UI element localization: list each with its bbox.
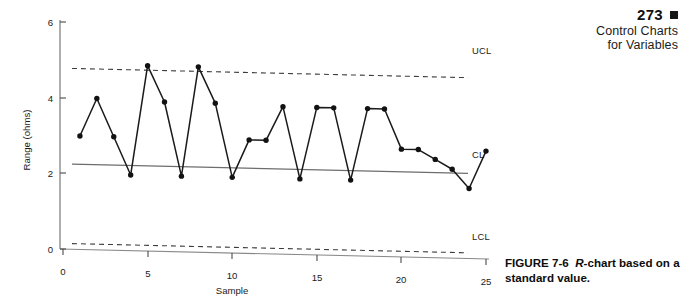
data-point-24 — [466, 186, 471, 191]
data-point-7 — [179, 173, 184, 178]
x-tick-label-15: 15 — [312, 272, 323, 283]
figure-caption: FIGURE 7-6 R-chart based on a standard v… — [505, 256, 683, 286]
x-tick-label-20: 20 — [396, 274, 407, 285]
data-point-22 — [433, 157, 438, 162]
running-head-line-2: for Variables — [498, 38, 678, 53]
running-head-line-1: Control Charts — [498, 24, 678, 39]
page-number: 273 — [637, 6, 663, 24]
lcl-label: LCL — [472, 231, 490, 242]
data-point-15 — [314, 105, 319, 110]
lcl-line — [72, 244, 468, 253]
data-series-line — [80, 66, 486, 189]
y-tick-label-0: 0 — [48, 244, 53, 255]
x-tick-label-5: 5 — [145, 268, 150, 279]
y-tick-label-4: 4 — [48, 93, 54, 104]
data-point-8 — [196, 64, 201, 69]
data-point-10 — [230, 175, 235, 180]
data-point-18 — [365, 106, 370, 111]
x-axis-title: Sample — [216, 285, 249, 296]
data-point-20 — [399, 146, 404, 151]
data-point-17 — [348, 177, 353, 182]
ucl-label: UCL — [472, 45, 491, 56]
data-point-23 — [449, 167, 454, 172]
y-tick-label-6: 6 — [48, 17, 53, 28]
x-tick-label-25: 25 — [481, 276, 492, 287]
y-axis-ticks — [60, 22, 66, 249]
data-point-11 — [246, 137, 251, 142]
ucl-line — [72, 68, 468, 77]
data-point-6 — [162, 99, 167, 104]
r-chart: 6 4 2 0 Range (ohms) 0 5 10 15 20 25 Sam… — [0, 0, 520, 298]
data-point-25 — [483, 148, 488, 153]
control-limit-lines — [72, 68, 468, 252]
y-axis-title: Range (ohms) — [21, 110, 32, 171]
data-point-14 — [297, 176, 302, 181]
chart-svg: 6 4 2 0 Range (ohms) 0 5 10 15 20 25 Sam… — [0, 0, 520, 298]
data-point-12 — [263, 138, 268, 143]
data-point-2 — [94, 96, 99, 101]
x-axis-line — [60, 249, 489, 259]
data-point-3 — [111, 134, 116, 139]
x-tick-label-10: 10 — [227, 270, 238, 281]
data-point-13 — [280, 104, 285, 109]
page-running-head: 273 Control Charts for Variables — [498, 6, 678, 53]
data-point-1 — [77, 133, 82, 138]
figure-caption-italic: R — [575, 256, 583, 269]
filled-square-icon — [670, 11, 678, 19]
data-point-16 — [331, 105, 336, 110]
page-number-row: 273 — [498, 6, 678, 24]
data-point-21 — [416, 147, 421, 152]
data-point-5 — [145, 63, 150, 68]
x-tick-label-0: 0 — [60, 266, 65, 277]
data-point-9 — [213, 100, 218, 105]
data-point-19 — [382, 106, 387, 111]
data-point-4 — [128, 172, 133, 177]
y-tick-label-2: 2 — [48, 168, 53, 179]
